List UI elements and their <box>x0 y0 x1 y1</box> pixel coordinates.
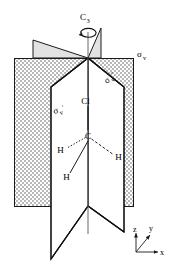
atom-h-right-label: H <box>115 152 122 162</box>
atom-cl-label: Cl <box>81 96 90 106</box>
atom-c-label: C <box>85 131 91 141</box>
axis-label-z: z <box>133 225 137 234</box>
c3-rotation-arrow <box>79 28 97 37</box>
axes-indicator: z y x <box>133 224 164 257</box>
plane-sigma-v-prime-face <box>51 58 88 259</box>
c3-label-subscript: 3 <box>87 17 90 24</box>
axis-y-arrow <box>136 235 150 252</box>
atom-h-left-label: H <box>57 145 64 155</box>
atom-h-bottom-label: H <box>63 172 70 182</box>
wing-right-upper <box>88 28 101 58</box>
wing-left-upper <box>33 40 88 58</box>
c3-label-group: C 3 <box>80 12 90 24</box>
axis-label-x: x <box>160 248 164 257</box>
sigma-v-label-group: σ v <box>137 49 147 61</box>
figure-root: Cl C H H H C 3 σ v σ v ′ σ v ″ <box>0 0 173 273</box>
c3-label-symbol: C <box>80 12 86 22</box>
plane-sigma-v-prime <box>51 58 88 259</box>
plane-wings-top <box>33 28 101 58</box>
sigma-v-symbol: σ <box>137 49 142 59</box>
axis-label-y: y <box>149 224 153 233</box>
sigma-v-subscript: v <box>143 54 147 61</box>
symmetry-diagram: Cl C H H H C 3 σ v σ v ′ σ v ″ <box>0 0 173 273</box>
